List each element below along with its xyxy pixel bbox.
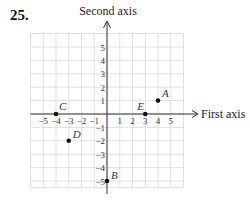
x-tick-label: −5 bbox=[38, 116, 48, 126]
y-tick-label: 5 bbox=[101, 43, 106, 53]
y-tick-label: −4 bbox=[95, 163, 105, 173]
point-label: B bbox=[111, 169, 118, 181]
x-tick-labels: −5−4−3−2−112345 bbox=[38, 116, 173, 126]
point-marker bbox=[54, 112, 59, 117]
x-tick-label: 2 bbox=[130, 116, 135, 126]
x-tick-label: 4 bbox=[156, 116, 161, 126]
point-label: E bbox=[136, 100, 144, 112]
problem-number: 25. bbox=[10, 7, 29, 23]
point-label: A bbox=[161, 87, 169, 99]
y-tick-label: −3 bbox=[95, 150, 105, 160]
x-tick-label: 5 bbox=[169, 116, 174, 126]
data-points: ABCDE bbox=[54, 87, 169, 184]
x-tick-label: 3 bbox=[143, 116, 148, 126]
x-tick-label: −4 bbox=[51, 116, 61, 126]
x-tick-label: −3 bbox=[64, 116, 74, 126]
point-marker bbox=[66, 139, 71, 144]
point-label: C bbox=[59, 100, 67, 112]
y-tick-label: −5 bbox=[95, 177, 105, 187]
y-tick-label: 1 bbox=[101, 96, 106, 106]
x-tick-label: 1 bbox=[118, 116, 123, 126]
point-label: D bbox=[72, 128, 81, 140]
coordinate-plane: 25. First axis Second axis −5−4−3−2−1123… bbox=[0, 0, 250, 203]
point-marker bbox=[156, 98, 161, 103]
x-axis-title: First axis bbox=[201, 107, 246, 121]
x-tick-label: −2 bbox=[77, 116, 87, 126]
y-tick-label: 3 bbox=[101, 69, 106, 79]
point-marker bbox=[105, 179, 110, 184]
y-axis-title: Second axis bbox=[79, 4, 137, 18]
y-tick-label: −1 bbox=[95, 123, 105, 133]
y-tick-label: 2 bbox=[101, 83, 106, 93]
point-marker bbox=[143, 112, 148, 117]
y-tick-label: −2 bbox=[95, 136, 105, 146]
y-tick-label: 4 bbox=[101, 56, 106, 66]
